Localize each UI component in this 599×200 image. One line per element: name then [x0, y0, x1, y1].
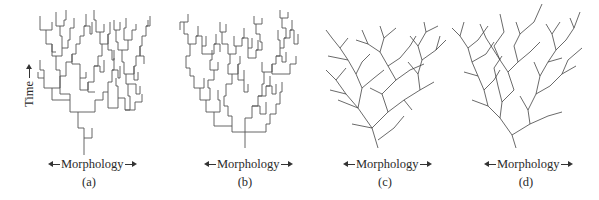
- tree-c: [326, 22, 446, 148]
- arrow-left-icon: [207, 164, 216, 165]
- morphology-axis-label-a: Morphology: [51, 157, 134, 172]
- arrow-right-icon: [561, 164, 570, 165]
- morphology-text: Morphology: [356, 157, 419, 172]
- morphology-axis-label-c: Morphology: [346, 157, 429, 172]
- arrow-right-icon: [125, 164, 134, 165]
- time-axis-label: Time: [22, 63, 36, 107]
- panel-label-a: (a): [74, 175, 104, 190]
- morphology-text: Morphology: [497, 157, 560, 172]
- time-axis-text: Time: [22, 81, 37, 107]
- panel-label-c: (c): [370, 175, 400, 190]
- panel-label-d: (d): [511, 175, 541, 190]
- arrow-left-icon: [346, 164, 355, 165]
- morphology-axis-label-d: Morphology: [487, 157, 570, 172]
- phylogeny-figure: Time Morphology (a) Morphology (b) Morph…: [0, 0, 599, 200]
- tree-d: [452, 4, 582, 148]
- arrow-right-icon: [281, 164, 290, 165]
- arrow-left-icon: [51, 164, 60, 165]
- morphology-text: Morphology: [61, 157, 124, 172]
- panel-label-b: (b): [230, 175, 260, 190]
- arrow-right-icon: [420, 164, 429, 165]
- arrow-up-icon: [29, 66, 30, 78]
- morphology-axis-label-b: Morphology: [207, 157, 290, 172]
- morphology-text: Morphology: [217, 157, 280, 172]
- arrow-left-icon: [487, 164, 496, 165]
- tree-a: [38, 10, 150, 155]
- tree-b: [180, 10, 298, 148]
